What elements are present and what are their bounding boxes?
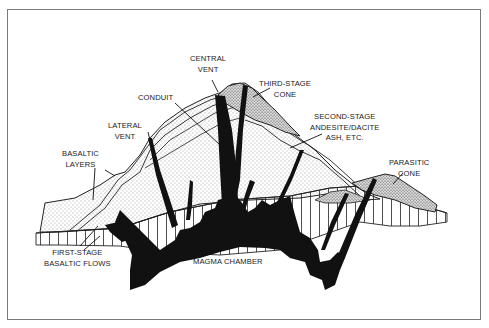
- central-vent-leader: [212, 80, 218, 92]
- label-magma-chamber: MAGMA CHAMBER: [193, 257, 263, 268]
- label-second-stage: SECOND-STAGE ANDESITE/DACITE ASH, ETC.: [310, 112, 379, 144]
- label-parasitic-cone: PARASITIC CONE: [389, 158, 429, 179]
- basaltic-layers-leader-2: [105, 170, 115, 176]
- label-first-stage: FIRST-STAGE BASALTIC FLOWS: [44, 248, 111, 269]
- label-conduit: CONDUIT: [138, 93, 173, 104]
- label-lateral-vent: LATERAL VENT: [108, 121, 142, 142]
- label-basaltic-layers: BASALTIC LAYERS: [62, 149, 99, 170]
- label-third-stage-cone: THIRD-STAGE CONE: [259, 79, 311, 100]
- label-central-vent: CENTRAL VENT: [190, 54, 226, 75]
